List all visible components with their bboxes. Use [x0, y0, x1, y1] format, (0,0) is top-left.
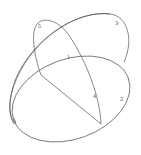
narrow-ellipse [34, 20, 101, 124]
geometry-figure: 5 3 1 4 2 [0, 0, 141, 155]
ellipse-diagram [0, 0, 141, 155]
large-tilted-ellipse [10, 14, 129, 124]
label-1: 1 [67, 55, 70, 60]
label-3: 3 [115, 21, 118, 26]
label-5: 5 [38, 24, 41, 29]
label-4: 4 [93, 94, 96, 99]
label-2: 2 [120, 97, 123, 102]
large-ellipse-left-arc [10, 14, 110, 124]
